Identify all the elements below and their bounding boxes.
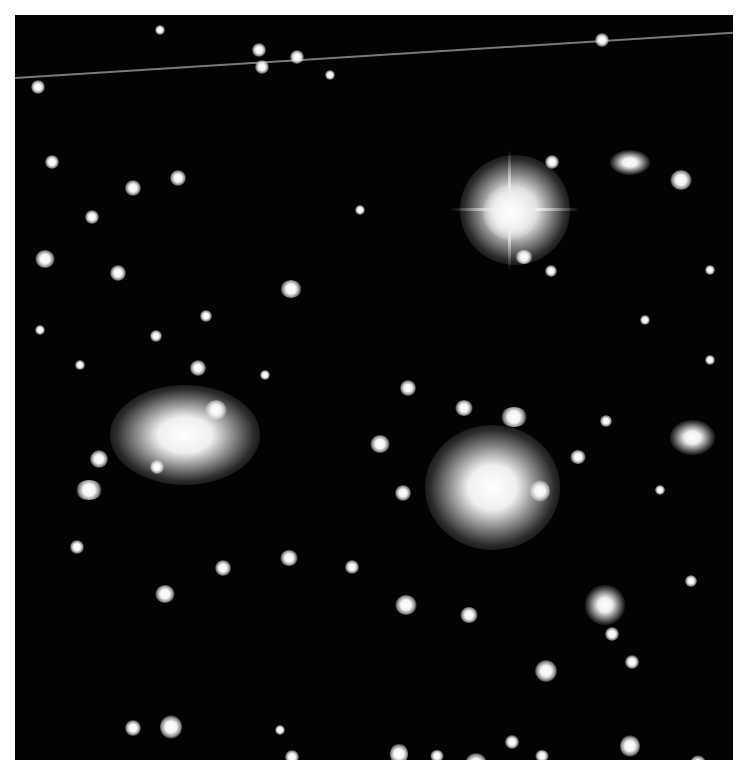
star: [455, 400, 473, 416]
star: [110, 265, 126, 281]
star: [90, 450, 108, 468]
star: [530, 480, 550, 502]
star: [155, 25, 165, 35]
star: [125, 180, 141, 196]
star: [535, 750, 549, 760]
star: [275, 725, 285, 735]
star: [215, 560, 231, 576]
star: [620, 735, 640, 757]
star: [625, 655, 639, 669]
star: [70, 540, 84, 554]
star: [430, 750, 444, 760]
satellite-trail: [15, 32, 733, 79]
star: [595, 33, 609, 47]
star: [170, 170, 186, 186]
star: [150, 460, 164, 474]
star: [75, 360, 85, 370]
star: [670, 170, 692, 190]
star: [160, 715, 182, 739]
star: [395, 485, 411, 501]
star: [705, 265, 715, 275]
star: [205, 400, 227, 420]
star: [150, 330, 162, 342]
star: [505, 735, 519, 749]
star: [515, 250, 533, 264]
star: [190, 360, 206, 376]
star: [395, 595, 417, 615]
star: [370, 435, 390, 453]
star: [500, 407, 528, 427]
star: [460, 607, 478, 623]
star: [260, 370, 270, 380]
star: [280, 550, 298, 566]
star: [290, 50, 304, 64]
galaxy-lower-right: [585, 585, 625, 625]
star: [285, 750, 299, 760]
star: [255, 60, 269, 74]
star: [465, 753, 487, 760]
star: [605, 627, 619, 641]
star: [45, 155, 59, 169]
star: [252, 43, 266, 57]
star: [31, 80, 45, 94]
galaxy-left: [110, 385, 260, 485]
star: [355, 205, 365, 215]
star: [325, 70, 335, 80]
star: [345, 560, 359, 574]
galaxy-upper-right: [610, 150, 650, 175]
star: [75, 480, 103, 500]
star: [640, 315, 650, 325]
star: [200, 310, 212, 322]
star: [685, 575, 697, 587]
star: [35, 325, 45, 335]
star: [280, 280, 302, 298]
star: [705, 355, 715, 365]
astronomical-photo: [15, 15, 733, 760]
bright-star: [483, 185, 538, 240]
star: [655, 485, 665, 495]
star: [600, 415, 612, 427]
star: [690, 755, 706, 760]
galaxy-right: [670, 420, 715, 455]
star: [545, 265, 557, 277]
star: [125, 720, 141, 736]
star: [155, 585, 175, 603]
star: [400, 380, 416, 396]
star: [545, 155, 559, 169]
star: [390, 743, 408, 760]
star: [35, 250, 55, 268]
star: [85, 210, 99, 224]
star: [570, 450, 586, 464]
star: [535, 660, 557, 682]
